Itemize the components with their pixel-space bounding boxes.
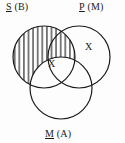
circle-label-s-alt: (B) <box>14 1 28 12</box>
circle-label-p: P (M) <box>79 1 104 12</box>
circle-label-m-term: M <box>45 128 54 139</box>
circle-label-p-alt: (M) <box>87 1 103 12</box>
x-mark-center: X <box>48 58 55 69</box>
venn-diagram-canvas <box>0 0 125 143</box>
circle-label-m-alt: (A) <box>57 128 71 139</box>
x-mark-right: X <box>85 41 92 52</box>
circle-label-s: S (B) <box>6 1 28 12</box>
venn-diagram: S (B) P (M) M (A) X X <box>0 0 125 143</box>
circle-label-m: M (A) <box>45 128 71 139</box>
